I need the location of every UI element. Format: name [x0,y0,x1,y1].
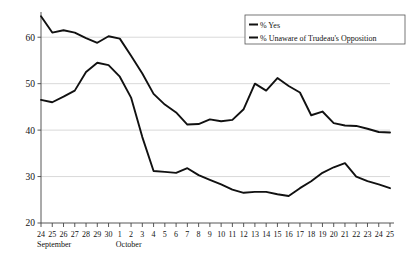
x-month-label-1: October [116,240,142,249]
x-tick-label-29: 23 [363,230,371,239]
x-tick-label-10: 4 [152,230,156,239]
x-tick-label-0: 24 [37,230,45,239]
x-tick-label-8: 2 [129,230,133,239]
x-tick-label-26: 20 [330,230,338,239]
x-tick-label-14: 8 [197,230,201,239]
x-tick-label-22: 16 [285,230,293,239]
x-tick-label-18: 12 [240,230,248,239]
x-tick-label-30: 24 [375,230,383,239]
x-tick-label-28: 22 [352,230,360,239]
x-tick-label-25: 19 [318,230,326,239]
y-tick-label-40: 40 [26,126,36,136]
y-tick-label-60: 60 [26,33,36,43]
y-tick-label-20: 20 [26,218,36,228]
chart-legend: % Yes% Unaware of Trudeau's Opposition [245,15,405,44]
x-tick-label-31: 25 [386,230,394,239]
x-tick-label-21: 15 [273,230,281,239]
x-tick-label-4: 28 [82,230,90,239]
legend-label-0: % Yes [260,21,280,30]
x-axis-ticks [41,223,390,227]
y-axis-ticks: 2030405060 [26,33,42,229]
x-tick-label-13: 7 [185,230,189,239]
line-chart: 2030405060 24252627282930123456789101112… [0,0,418,259]
x-tick-label-19: 13 [251,230,259,239]
x-axis-tick-labels: 2425262728293012345678910111213141516171… [37,230,394,239]
legend-label-1: % Unaware of Trudeau's Opposition [260,34,377,43]
x-tick-label-24: 18 [307,230,315,239]
x-tick-label-6: 30 [105,230,113,239]
x-tick-label-2: 26 [60,230,68,239]
x-tick-label-11: 5 [163,230,167,239]
x-tick-label-27: 21 [341,230,349,239]
x-tick-label-5: 29 [93,230,101,239]
x-tick-label-12: 6 [174,230,178,239]
x-tick-label-15: 9 [208,230,212,239]
x-tick-label-23: 17 [296,230,304,239]
x-tick-label-9: 3 [140,230,144,239]
x-tick-label-7: 1 [118,230,122,239]
x-tick-label-1: 25 [48,230,56,239]
x-month-label-0: September [37,240,72,249]
x-tick-label-3: 27 [71,230,79,239]
x-tick-label-17: 11 [229,230,237,239]
y-tick-label-30: 30 [26,172,36,182]
x-axis-month-labels: SeptemberOctober [37,240,142,249]
series-line-1 [41,63,390,196]
chart-canvas: 2030405060 24252627282930123456789101112… [0,0,418,259]
x-tick-label-20: 14 [262,230,270,239]
gridlines [41,37,390,176]
x-tick-label-16: 10 [217,230,225,239]
y-tick-label-50: 50 [26,79,36,89]
